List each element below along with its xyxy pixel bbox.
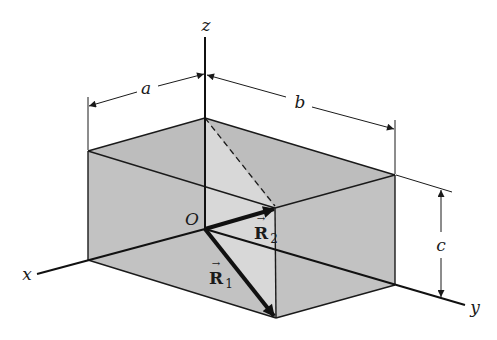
vector-r2-subscript: 2	[270, 232, 278, 246]
dim-a-arrow-left	[89, 92, 137, 106]
vector-r1-subscript: 1	[225, 277, 233, 291]
dim-c-extension-top	[396, 175, 452, 192]
y-axis-label: y	[469, 297, 480, 317]
dim-c-label: c	[436, 235, 446, 255]
vector-r2-letter: R	[254, 223, 269, 243]
dim-b-label: b	[295, 92, 306, 112]
dim-b-arrow-right	[312, 107, 394, 129]
edge-front-vertical	[275, 208, 276, 318]
z-axis-label: z	[201, 15, 212, 35]
box-vector-diagram: a b c z x y O → R 2 → R 1	[0, 0, 497, 340]
dim-a-label: a	[141, 78, 151, 98]
vector-r1-letter: R	[209, 268, 224, 288]
origin-label: O	[185, 209, 199, 229]
dim-a-arrow-right	[158, 74, 204, 86]
dim-b-arrow-left	[207, 75, 286, 97]
x-axis-label: x	[22, 264, 32, 284]
